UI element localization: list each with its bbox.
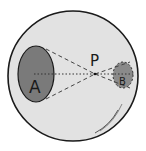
label-b: B <box>119 76 126 87</box>
diagram-canvas: A P B <box>0 0 146 151</box>
point-p-marker <box>94 73 97 76</box>
label-p: P <box>90 52 99 70</box>
label-a: A <box>29 77 41 97</box>
